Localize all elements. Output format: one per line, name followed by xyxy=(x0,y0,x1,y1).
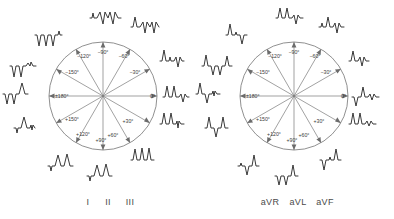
caption-augmented-avf: aVF xyxy=(316,197,334,207)
ecg-complex-150 xyxy=(14,117,35,133)
angle-label-m60-aug: −60° xyxy=(310,53,321,59)
caption-limb-lead-1: I xyxy=(87,197,90,207)
ecg-complex-90 xyxy=(87,164,112,181)
caption-augmented-avr: aVR xyxy=(261,197,280,207)
caption-limb-lead-2: II xyxy=(105,197,111,207)
panel-augmented-leads: 0° +30° +60° +90° +120° +150° ±180° −150… xyxy=(196,8,379,185)
angle-label-30-aug: +30° xyxy=(314,118,325,124)
ecg-complex-120 xyxy=(48,154,73,171)
ecg-complex--60 xyxy=(131,17,159,33)
ecg-complexes-limb xyxy=(3,12,189,181)
ecg-complex--30 xyxy=(160,50,184,67)
ecg-complex--30-aug xyxy=(349,51,369,66)
ecg-complex-150-aug xyxy=(205,117,228,137)
ecg-complex-0-aug xyxy=(352,87,379,106)
angle-label-150-aug: +150° xyxy=(256,116,270,122)
angle-label-m90-aug: −90° xyxy=(289,49,300,55)
angle-label-120-aug: +120° xyxy=(267,131,281,137)
ecg-complex--150-aug xyxy=(202,55,232,75)
ecg-complex--120-aug xyxy=(226,24,247,44)
caption-limb-lead-3: III xyxy=(126,197,134,207)
angle-label-m30-aug: −30° xyxy=(321,69,332,75)
angle-label-m150: −150° xyxy=(65,69,79,75)
ecg-complex--60-aug xyxy=(319,17,344,33)
angle-label-m30: −30° xyxy=(130,69,141,75)
angle-label-120: +120° xyxy=(76,131,90,137)
panel-limb-leads: 0° +30° +60° +90° +120° +150° ±180° −150… xyxy=(3,12,189,181)
angle-label-0: 0° xyxy=(150,93,155,99)
angle-label-m120: −120° xyxy=(77,53,91,59)
angle-label-90-aug: +90° xyxy=(287,137,298,143)
angle-label-m90: −90° xyxy=(98,49,109,55)
angle-label-180: ±180° xyxy=(55,93,69,99)
caption-augmented-avl: aVL xyxy=(290,197,307,207)
angle-label-150: +150° xyxy=(65,116,79,122)
angle-label-90: +90° xyxy=(96,137,107,143)
ecg-complexes-augmented xyxy=(196,8,379,185)
angle-label-m60: −60° xyxy=(119,53,130,59)
ecg-complex-60 xyxy=(131,148,154,160)
ecg-complex--150 xyxy=(10,62,36,77)
ecg-complex-0 xyxy=(163,86,189,102)
angle-label-30: +30° xyxy=(123,118,134,124)
ecg-complex-180 xyxy=(3,83,28,104)
angle-label-180-aug: ±180° xyxy=(246,93,260,99)
angle-label-m150-aug: −150° xyxy=(256,69,270,75)
angle-label-60: +60° xyxy=(108,132,119,138)
hexaxial-reference-figure: 0° +30° +60° +90° +120° +150° ±180° −150… xyxy=(0,0,394,219)
ecg-complex-30 xyxy=(160,113,184,128)
angle-label-m120-aug: −120° xyxy=(268,53,282,59)
ecg-complex-180-aug xyxy=(196,83,220,103)
ecg-complex--90-aug xyxy=(276,8,303,24)
captions: I II III aVR aVL aVF xyxy=(87,197,334,207)
ecg-complex-60-aug xyxy=(320,149,341,170)
angle-label-60-aug: +60° xyxy=(299,132,310,138)
ecg-complex--90 xyxy=(90,12,121,24)
ecg-complex--120 xyxy=(35,31,62,46)
angle-label-0-aug: 0° xyxy=(341,93,346,99)
ecg-complex-90-aug xyxy=(275,165,298,185)
ecg-complex-30-aug xyxy=(349,113,376,126)
ecg-complex-120-aug xyxy=(238,155,259,175)
